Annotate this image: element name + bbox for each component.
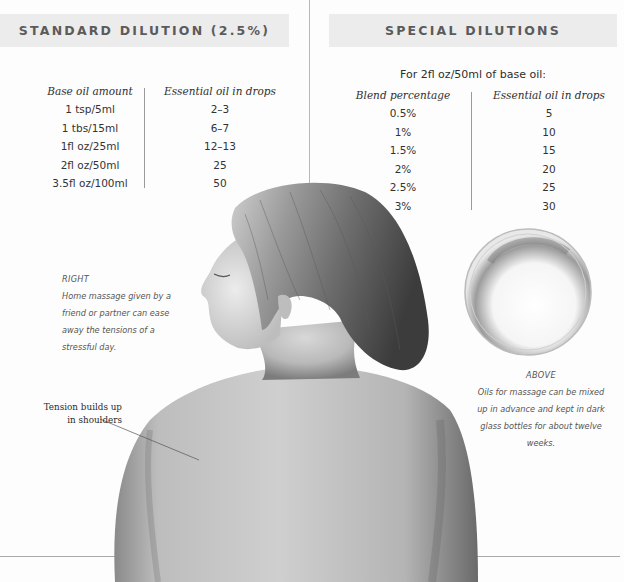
oil-dish-photo [465, 229, 591, 355]
bottom-rule [477, 556, 620, 557]
caption-label: RIGHT [62, 271, 172, 288]
table-cell: 12–13 [160, 137, 280, 156]
bottom-rule [0, 556, 116, 557]
table-cell: 2.5% [343, 178, 463, 197]
blend-percentage-column: Blend percentage 0.5% 1% 1.5% 2% 2.5% 3% [343, 86, 463, 215]
annotation-line-2: in shoulders [32, 414, 122, 427]
table-cell: 0.5% [343, 104, 463, 123]
table-cell: 3% [343, 197, 463, 216]
table-cell: 2–3 [160, 100, 280, 119]
caption-text: Home massage given by a friend or partne… [62, 288, 172, 356]
table-cell: 2% [343, 160, 463, 179]
table-cell: 10 [489, 123, 609, 142]
tension-annotation: Tension builds up in shoulders [32, 401, 122, 427]
special-dilutions-subtitle: For 2fl oz/50ml of base oil: [329, 68, 617, 81]
table-cell: 25 [160, 156, 280, 175]
column-header: Essential oil in drops [160, 82, 280, 100]
column-header: Blend percentage [343, 86, 463, 104]
table-cell: 25 [489, 178, 609, 197]
special-dilutions-title: SPECIAL DILUTIONS [385, 23, 561, 38]
table-cell: 30 [489, 197, 609, 216]
column-header: Base oil amount [25, 82, 155, 100]
caption-label: ABOVE [472, 367, 610, 384]
essential-oil-column: Essential oil in drops 5 10 15 20 25 30 [489, 86, 609, 215]
caption-above: ABOVE Oils for massage can be mixed up i… [472, 367, 610, 452]
caption-text: Oils for massage can be mixed up in adva… [472, 384, 610, 452]
special-dilutions-header: SPECIAL DILUTIONS [329, 14, 617, 47]
column-header: Essential oil in drops [489, 86, 609, 104]
table-cell: 50 [160, 174, 280, 193]
table-cell: 2fl oz/50ml [25, 156, 155, 175]
table-cell: 6–7 [160, 119, 280, 138]
table-cell: 3.5fl oz/100ml [25, 174, 155, 193]
column-divider [309, 0, 310, 200]
table-cell: 1 tbs/15ml [25, 119, 155, 138]
special-dilutions-table: Blend percentage 0.5% 1% 1.5% 2% 2.5% 3%… [329, 86, 619, 216]
standard-dilution-table: Base oil amount 1 tsp/5ml 1 tbs/15ml 1fl… [0, 82, 290, 192]
caption-right: RIGHT Home massage given by a friend or … [62, 271, 172, 356]
table-cell: 1fl oz/25ml [25, 137, 155, 156]
base-oil-column: Base oil amount 1 tsp/5ml 1 tbs/15ml 1fl… [25, 82, 155, 193]
table-cell: 1% [343, 123, 463, 142]
book-page: STANDARD DILUTION (2.5%) Base oil amount… [0, 0, 624, 582]
table-cell: 20 [489, 160, 609, 179]
table-cell: 1.5% [343, 141, 463, 160]
table-divider [144, 88, 145, 188]
table-divider [471, 92, 472, 210]
standard-dilution-header: STANDARD DILUTION (2.5%) [0, 14, 289, 47]
annotation-line-1: Tension builds up [32, 401, 122, 414]
table-cell: 15 [489, 141, 609, 160]
table-cell: 5 [489, 104, 609, 123]
table-cell: 1 tsp/5ml [25, 100, 155, 119]
standard-dilution-title: STANDARD DILUTION (2.5%) [19, 23, 270, 38]
essential-oil-column: Essential oil in drops 2–3 6–7 12–13 25 … [160, 82, 280, 193]
